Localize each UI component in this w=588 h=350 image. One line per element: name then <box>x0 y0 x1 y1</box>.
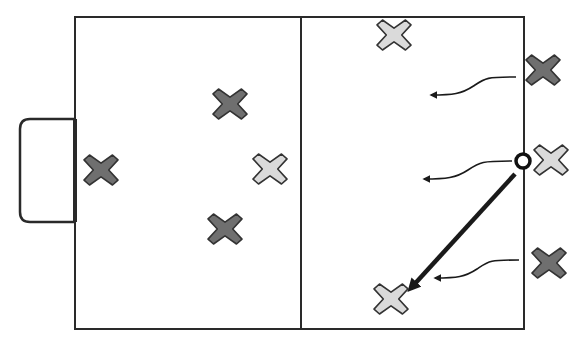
player-dark-x-icon <box>213 89 247 119</box>
pass-line <box>411 174 515 288</box>
player-light-x-icon <box>534 145 568 175</box>
player-dark-x-icon <box>532 248 566 278</box>
pass-arrow <box>411 174 515 288</box>
player-light-x-icon <box>377 20 411 50</box>
court-boundary <box>75 17 524 329</box>
ball-circle <box>516 154 530 168</box>
run-arrow <box>435 260 519 278</box>
ball-icon <box>516 154 530 168</box>
court-canvas <box>0 0 588 350</box>
player-light-x-icon <box>374 284 408 314</box>
play-diagram <box>0 0 588 350</box>
player-dark-x-icon <box>526 55 560 85</box>
player-dark-x-icon <box>208 214 242 244</box>
player-dark-x-icon <box>84 155 118 185</box>
court <box>75 17 524 329</box>
players <box>84 20 568 314</box>
run-arrow <box>431 77 516 95</box>
player-light-x-icon <box>253 154 287 184</box>
run-arrow <box>424 161 512 179</box>
goal-outline <box>20 119 75 222</box>
player-run-arrows <box>424 77 519 278</box>
goal-area <box>20 119 75 222</box>
